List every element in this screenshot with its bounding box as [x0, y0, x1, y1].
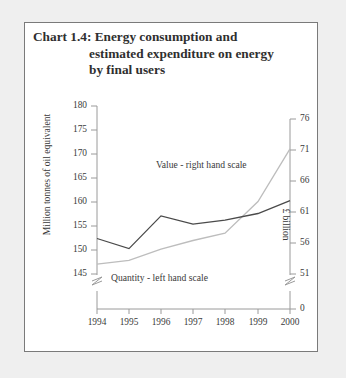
- x-tick-label-1996: 1996: [144, 317, 178, 327]
- left-tick-label-160: 160: [61, 196, 87, 206]
- series-annotation-quantity: Quantity - left hand scale: [111, 272, 208, 283]
- right-tick-label-61: 61: [300, 206, 326, 216]
- x-tick-label-1997: 1997: [176, 317, 210, 327]
- x-tick-label-1994: 1994: [80, 317, 114, 327]
- x-tick-label-1998: 1998: [208, 317, 242, 327]
- left-axis-title: Million tonnes of oil equivalent: [41, 110, 52, 240]
- x-tick-label-2000: 2000: [273, 317, 307, 327]
- right-axis-title: £ billion: [281, 182, 292, 268]
- series-annotation-value: Value - right hand scale: [156, 159, 247, 170]
- left-tick-label-180: 180: [61, 100, 87, 110]
- right-tick-label-51: 51: [300, 268, 326, 278]
- right-tick-label-66: 66: [300, 175, 326, 185]
- left-axis-break-icon: [92, 277, 102, 285]
- left-tick-label-170: 170: [61, 148, 87, 158]
- right-tick-label-56: 56: [300, 237, 326, 247]
- left-tick-label-145: 145: [61, 268, 87, 278]
- right-tick-label-76: 76: [300, 113, 326, 123]
- left-tick-label-155: 155: [61, 220, 87, 230]
- chart-plot-area: 180 175 170 165 160 155 150 145 76 71 66…: [25, 23, 319, 353]
- chart-frame: Chart 1.4: Energy consumption and estima…: [24, 22, 318, 352]
- left-tick-label-175: 175: [61, 124, 87, 134]
- chart-svg: [25, 23, 319, 353]
- left-tick-label-165: 165: [61, 172, 87, 182]
- x-tick-label-1995: 1995: [112, 317, 146, 327]
- right-tick-label-71: 71: [300, 144, 326, 154]
- x-tick-label-1999: 1999: [241, 317, 275, 327]
- series-line-quantity: [97, 201, 290, 249]
- right-axis-break-icon: [285, 277, 295, 285]
- left-tick-label-150: 150: [61, 244, 87, 254]
- right-tick-label-0: 0: [300, 303, 326, 313]
